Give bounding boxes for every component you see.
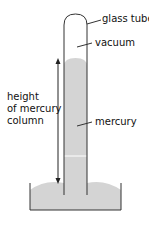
label-height-2: of mercury [7, 103, 61, 115]
label-glass-tube: glass tube [102, 13, 149, 25]
label-height-1: height [7, 91, 39, 103]
height-arrow [56, 58, 61, 184]
label-height-3: column [7, 115, 44, 127]
tube-mercury [64, 58, 87, 195]
label-vacuum: vacuum [95, 37, 135, 49]
label-mercury: mercury [95, 116, 137, 128]
